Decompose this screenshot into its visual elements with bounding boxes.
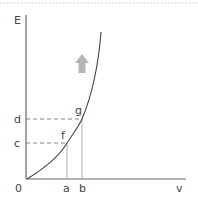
up-arrow-icon xyxy=(75,54,89,73)
label-g: g xyxy=(75,104,82,117)
label-E: E xyxy=(14,14,21,27)
label-a: a xyxy=(63,182,70,195)
label-d: d xyxy=(14,113,21,126)
label-origin: 0 xyxy=(15,182,22,195)
energy-curve xyxy=(27,32,101,179)
label-c: c xyxy=(14,137,20,150)
label-f: f xyxy=(61,129,66,142)
label-v: v xyxy=(176,182,183,195)
diagram-canvas: E d c g f 0 a b v xyxy=(0,0,198,206)
label-b: b xyxy=(79,182,86,195)
